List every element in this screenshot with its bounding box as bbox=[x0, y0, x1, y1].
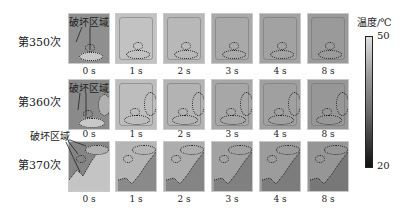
damage-oval-small bbox=[83, 110, 93, 118]
thermal-panel-r2-4s bbox=[259, 79, 301, 130]
damage-oval-large bbox=[174, 50, 198, 59]
damage-oval-large bbox=[268, 115, 294, 125]
damage-oval-small bbox=[325, 42, 335, 50]
colorbar-title: 温度/℃ bbox=[357, 14, 392, 29]
damage-oval-large bbox=[79, 52, 103, 61]
time-label: 0 s bbox=[68, 194, 110, 204]
time-label: 3 s bbox=[211, 194, 253, 204]
time-label: 8 s bbox=[307, 194, 349, 204]
thermal-panel-r2-2s bbox=[163, 79, 205, 130]
damage-oval-top bbox=[228, 145, 252, 155]
thermal-panel-r3-3s bbox=[211, 141, 253, 192]
damage-oval-small bbox=[219, 155, 229, 163]
damage-oval-top bbox=[180, 145, 204, 155]
thermal-panel-r1-4s bbox=[259, 13, 301, 64]
damage-oval-large bbox=[79, 118, 105, 128]
time-label: 4 s bbox=[259, 129, 301, 139]
time-label: 8 s bbox=[307, 66, 349, 76]
thermal-panel-r3-1s bbox=[115, 141, 157, 192]
damage-region-label-r3: 破坏区域 bbox=[30, 128, 70, 143]
thermal-panel-r1-1s bbox=[115, 13, 157, 64]
damage-oval-small bbox=[85, 44, 95, 52]
damage-oval-right bbox=[144, 92, 157, 116]
damage-oval-small bbox=[277, 42, 287, 50]
thermal-panel-r2-8s bbox=[307, 79, 349, 130]
damage-oval-top bbox=[85, 145, 109, 155]
time-label: 2 s bbox=[163, 129, 205, 139]
damage-oval-small bbox=[171, 155, 181, 163]
damage-oval-large bbox=[318, 50, 342, 59]
row-label-370: 第370次 bbox=[18, 156, 61, 172]
colorbar-max-label: 50 bbox=[377, 30, 390, 41]
damage-oval-right bbox=[336, 92, 349, 116]
temperature-colorbar bbox=[365, 36, 373, 168]
time-label: 0 s bbox=[68, 66, 110, 76]
damage-oval-large bbox=[126, 50, 150, 59]
damage-oval-small bbox=[229, 42, 239, 50]
time-label: 3 s bbox=[211, 129, 253, 139]
damage-oval-small bbox=[181, 42, 191, 50]
damage-oval-large bbox=[172, 115, 198, 125]
time-label: 4 s bbox=[259, 66, 301, 76]
damage-region-label-r2: 破坏区域 bbox=[69, 80, 109, 95]
damage-oval-top bbox=[132, 145, 156, 155]
time-label: 8 s bbox=[307, 129, 349, 139]
colorbar-min-label: 20 bbox=[377, 160, 390, 171]
damage-oval-small bbox=[123, 155, 133, 163]
thermal-panel-r1-2s bbox=[163, 13, 205, 64]
damage-oval-small bbox=[133, 42, 143, 50]
time-label: 2 s bbox=[163, 194, 205, 204]
time-label: 1 s bbox=[115, 194, 157, 204]
thermal-panel-r3-2s bbox=[163, 141, 205, 192]
row-label-360: 第360次 bbox=[18, 93, 61, 109]
damage-oval-large bbox=[316, 115, 342, 125]
damage-oval-top bbox=[324, 145, 348, 155]
damage-oval-large bbox=[270, 50, 294, 59]
time-label: 1 s bbox=[115, 129, 157, 139]
damage-oval-top bbox=[276, 145, 300, 155]
damage-oval-large bbox=[124, 115, 150, 125]
thermal-panel-r3-4s bbox=[259, 141, 301, 192]
thermal-panel-r1-8s bbox=[307, 13, 349, 64]
time-label: 4 s bbox=[259, 194, 301, 204]
damage-oval-large bbox=[222, 50, 246, 59]
thermal-panel-r2-3s bbox=[211, 79, 253, 130]
damage-oval-right bbox=[288, 92, 301, 116]
damage-oval-large bbox=[220, 115, 246, 125]
time-label: 1 s bbox=[115, 66, 157, 76]
damage-oval-right bbox=[98, 94, 110, 116]
time-label: 0 s bbox=[68, 129, 110, 139]
row-label-350: 第350次 bbox=[18, 33, 61, 49]
damage-oval-right bbox=[192, 92, 205, 116]
thermal-panel-r2-1s bbox=[115, 79, 157, 130]
thermal-panel-r1-3s bbox=[211, 13, 253, 64]
time-label: 3 s bbox=[211, 66, 253, 76]
thermal-panel-r3-0s bbox=[68, 141, 110, 192]
damage-oval-small bbox=[267, 155, 277, 163]
damage-oval-small bbox=[76, 155, 86, 163]
damage-oval-small bbox=[315, 155, 325, 163]
damage-region-label-r1: 破坏区域 bbox=[69, 14, 109, 29]
time-label: 2 s bbox=[163, 66, 205, 76]
damage-oval-right bbox=[240, 92, 253, 116]
thermal-panel-r3-8s bbox=[307, 141, 349, 192]
